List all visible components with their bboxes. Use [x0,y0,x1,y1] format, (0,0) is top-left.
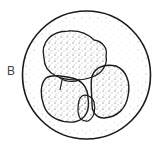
embryo-illustration [0,0,167,150]
embryo-figure: B [0,0,167,150]
blastomere-bottom-small [78,95,95,121]
